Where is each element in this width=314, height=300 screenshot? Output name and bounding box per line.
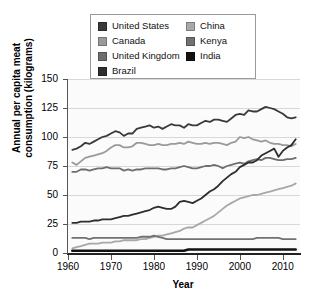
series-line-india — [72, 250, 295, 251]
legend-item-label: United States — [112, 21, 169, 31]
legend-swatch-icon — [186, 37, 195, 46]
legend-swatch-icon — [98, 22, 107, 31]
legend-swatch-icon — [98, 52, 107, 61]
legend-item-united-states[interactable]: United States — [98, 19, 180, 33]
legend-item-label: Kenya — [200, 36, 227, 46]
legend-item-china[interactable]: China — [186, 19, 227, 33]
legend-item-kenya[interactable]: Kenya — [186, 34, 227, 48]
legend-box: United StatesCanadaUnited KingdomBrazil … — [90, 14, 256, 79]
legend-item-united-kingdom[interactable]: United Kingdom — [98, 49, 180, 63]
legend-item-label: Canada — [112, 36, 145, 46]
series-line-united-kingdom — [72, 158, 295, 172]
legend-column-right: ChinaKenyaIndia — [186, 19, 227, 64]
legend-swatch-icon — [186, 52, 195, 61]
legend-item-canada[interactable]: Canada — [98, 34, 180, 48]
x-axis-title: Year — [60, 279, 306, 290]
legend-item-label: India — [200, 51, 221, 61]
legend-item-label: Brazil — [112, 66, 136, 76]
legend-item-india[interactable]: India — [186, 49, 227, 63]
legend-swatch-icon — [98, 37, 107, 46]
series-line-kenya — [72, 236, 295, 239]
legend-item-brazil[interactable]: Brazil — [98, 64, 180, 78]
legend-item-label: United Kingdom — [112, 51, 180, 61]
legend-item-label: China — [200, 21, 225, 31]
legend-swatch-icon — [186, 22, 195, 31]
legend-column-left: United StatesCanadaUnited KingdomBrazil — [98, 19, 180, 79]
legend-swatch-icon — [98, 67, 107, 76]
chart-root: Annual per capita meat consumption (kilo… — [0, 0, 314, 300]
